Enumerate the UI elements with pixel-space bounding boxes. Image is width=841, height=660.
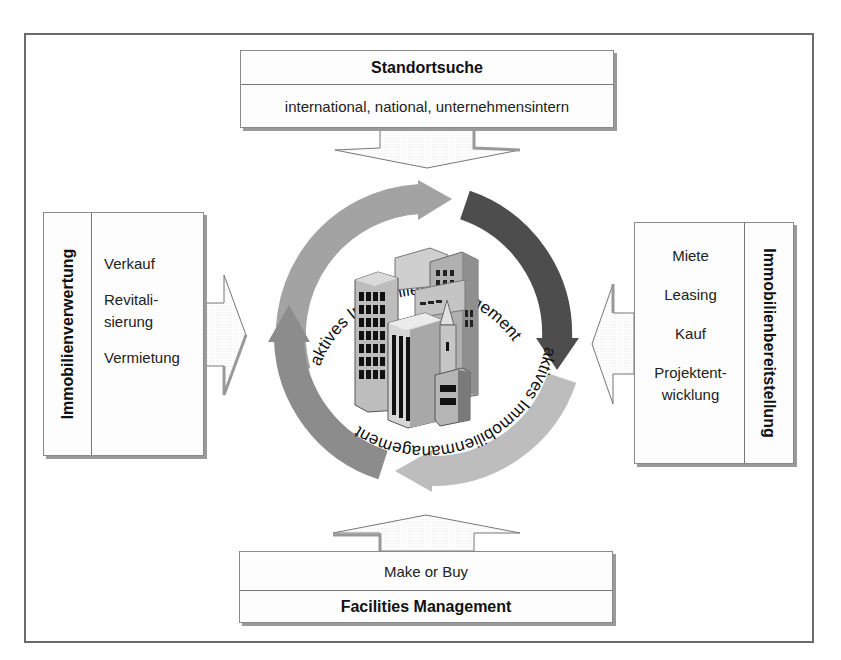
list-item-revitali: Revitali- <box>104 289 197 311</box>
list-item-miete: Miete <box>635 245 746 267</box>
facilities-subtitle-row: Make or Buy <box>240 552 612 591</box>
standortsuche-subtitle: international, national, unternehmensint… <box>285 98 569 115</box>
immobilienverwertung-list: Verkauf Revitali- sierung Vermietung <box>104 253 197 383</box>
left-block-arrow <box>203 275 246 395</box>
standortsuche-header: Standortsuche <box>241 51 613 85</box>
immobilienbereitstellung-title-cell: Immobilienbereitstellung <box>744 223 793 463</box>
list-item-leasing: Leasing <box>635 284 746 306</box>
top-block-arrow <box>335 128 520 168</box>
facilities-header: Facilities Management <box>240 591 612 622</box>
arrow-head-top <box>418 180 452 220</box>
facilities-management-box: Make or Buy Facilities Management <box>239 551 613 623</box>
standortsuche-title: Standortsuche <box>371 59 483 77</box>
immobilienbereitstellung-list: Miete Leasing Kauf Projektent- wicklung <box>635 245 746 406</box>
standortsuche-subtitle-row: international, national, unternehmensint… <box>241 85 613 127</box>
list-item-verkauf: Verkauf <box>104 253 197 275</box>
list-item-vermietung: Vermietung <box>104 347 197 369</box>
immobilienverwertung-title: Immobilienverwertung <box>59 249 77 420</box>
list-item-sierung: sierung <box>104 311 197 333</box>
bottom-block-arrow <box>333 515 520 551</box>
immobilienbereitstellung-box: Miete Leasing Kauf Projektent- wicklung … <box>634 222 794 464</box>
facilities-subtitle: Make or Buy <box>384 563 468 580</box>
immobilienbereitstellung-title: Immobilienbereitstellung <box>760 248 778 437</box>
right-block-arrow <box>592 284 634 404</box>
immobilienverwertung-title-cell: Immobilienverwertung <box>44 213 92 455</box>
facilities-title: Facilities Management <box>341 598 512 616</box>
list-item-kauf: Kauf <box>635 323 746 345</box>
list-item-wicklung: wicklung <box>635 384 746 406</box>
list-item-projektent: Projektent- <box>635 362 746 384</box>
immobilienverwertung-box: Immobilienverwertung Verkauf Revitali- s… <box>43 212 204 456</box>
city-buildings-icon <box>355 248 478 428</box>
standortsuche-box: Standortsuche international, national, u… <box>240 50 614 128</box>
